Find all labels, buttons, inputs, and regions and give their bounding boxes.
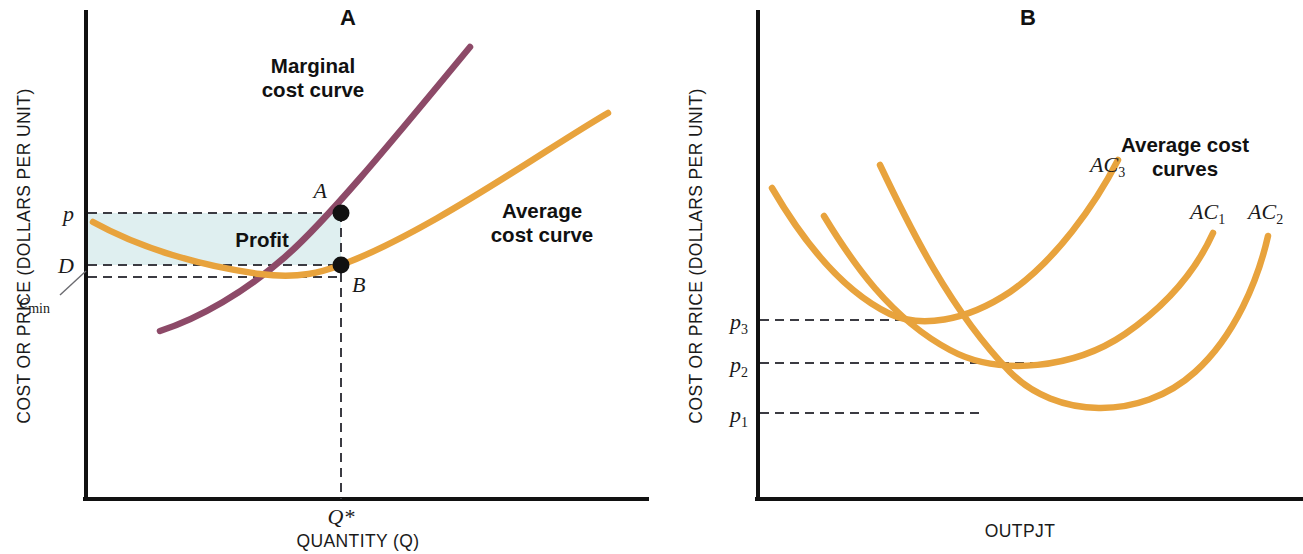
p2-base: p bbox=[728, 352, 741, 377]
panel-a: A COST OR PRICE (DOLLARS PER UNIT) QUANT… bbox=[0, 0, 660, 554]
y-tick-label-p1: p1 bbox=[728, 402, 748, 430]
ac1-base: AC bbox=[1188, 199, 1218, 224]
point-b-label: B bbox=[352, 272, 365, 297]
panel-a-x-axis-title: QUANTITY (Q) bbox=[296, 531, 419, 551]
y-tick-label-p3: p3 bbox=[728, 309, 748, 337]
ac3-base: AC bbox=[1088, 152, 1118, 177]
p3-subscript: 3 bbox=[741, 322, 748, 337]
panel-b-y-axis-title: COST OR PRICE (DOLLARS PER UNIT) bbox=[686, 88, 706, 423]
ac1-label: AC1 bbox=[1188, 199, 1225, 227]
ac3-curve bbox=[772, 160, 1118, 321]
ac2-label: AC2 bbox=[1246, 199, 1283, 227]
y-tick-label-p2: p2 bbox=[728, 352, 748, 380]
y-tick-label-p: p bbox=[61, 201, 74, 226]
p1-base: p bbox=[728, 402, 741, 427]
average-cost-curves-heading-line1: Average cost bbox=[1121, 133, 1249, 156]
panel-b-x-axis-title: OUTPJT bbox=[985, 521, 1055, 541]
average-cost-curve-label-line2: cost curve bbox=[491, 223, 594, 246]
marginal-cost-curve-label-line1: Marginal bbox=[271, 54, 355, 77]
p1-subscript: 1 bbox=[741, 415, 748, 430]
panel-a-y-axis-title: COST OR PRICE (DOLLARS PER UNIT) bbox=[14, 88, 34, 423]
cmin-subscript: min bbox=[28, 301, 50, 316]
point-b-marker bbox=[333, 257, 350, 274]
cmin-annotation: cmin bbox=[19, 289, 50, 316]
y-tick-label-d: D bbox=[57, 253, 74, 278]
p3-base: p bbox=[728, 309, 741, 334]
marginal-cost-curve-label-line2: cost curve bbox=[262, 78, 365, 101]
p2-subscript: 2 bbox=[741, 365, 748, 380]
ac1-subscript: 1 bbox=[1218, 212, 1225, 227]
panel-b: B COST OR PRICE (DOLLARS PER UNIT) OUTPJ… bbox=[660, 0, 1303, 554]
ac1-curve bbox=[824, 216, 1213, 366]
ac2-base: AC bbox=[1246, 199, 1276, 224]
point-a-marker bbox=[333, 205, 350, 222]
average-cost-curves-heading-line2: curves bbox=[1152, 157, 1218, 180]
point-a-label: A bbox=[312, 178, 328, 203]
ac3-label: AC3 bbox=[1088, 152, 1125, 180]
average-cost-curve-label-line1: Average bbox=[502, 199, 582, 222]
average-cost-curve bbox=[93, 113, 608, 276]
panel-a-letter: A bbox=[340, 5, 356, 30]
ac2-subscript: 2 bbox=[1276, 212, 1283, 227]
panel-b-letter: B bbox=[1020, 5, 1036, 30]
ac3-subscript: 3 bbox=[1118, 165, 1125, 180]
cost-curves-figure: A COST OR PRICE (DOLLARS PER UNIT) QUANT… bbox=[0, 0, 1303, 554]
profit-label: Profit bbox=[235, 228, 289, 251]
x-tick-label-qstar: Q* bbox=[328, 504, 355, 529]
